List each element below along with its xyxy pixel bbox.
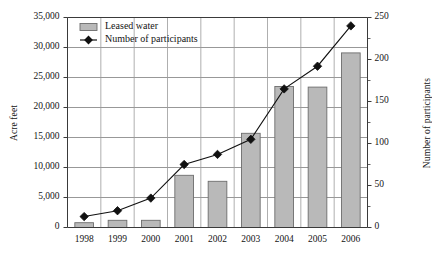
y-left-tick-label: 10,000: [14, 161, 60, 171]
y-left-tick-label: 0: [14, 221, 60, 231]
legend-label-participants: Number of participants: [105, 33, 198, 44]
bar-2005: [308, 87, 327, 227]
data-point-1999: [113, 207, 121, 215]
legend-swatch-leased-water: [80, 24, 97, 31]
y-right-tick-label: 250: [375, 11, 415, 21]
bar-2003: [242, 133, 261, 227]
bar-1998: [75, 223, 94, 228]
y-left-tick-label: 15,000: [14, 131, 60, 141]
y-left-tick-label: 20,000: [14, 101, 60, 111]
legend-label-leased-water: Leased water: [105, 20, 158, 31]
y-left-tick-label: 35,000: [14, 11, 60, 21]
bar-2004: [275, 87, 294, 228]
y-right-tick-label: 50: [375, 179, 415, 189]
bar-2002: [208, 181, 227, 227]
legend-graphics: [80, 24, 97, 45]
data-point-2002: [213, 150, 221, 158]
y-right-tick-label: 100: [375, 137, 415, 147]
bar-2006: [342, 53, 361, 228]
data-point-1998: [80, 212, 88, 220]
bar-2001: [175, 175, 194, 227]
y-right-tick-label: 0: [375, 221, 415, 231]
y-right-tick-label: 200: [375, 53, 415, 63]
bars-group: [75, 53, 360, 228]
y-right-tick-label: 150: [375, 95, 415, 105]
bar-2000: [142, 220, 161, 227]
y-left-tick-label: 30,000: [14, 41, 60, 51]
y-left-tick-label: 5,000: [14, 191, 60, 201]
y-left-tick-label: 25,000: [14, 71, 60, 81]
legend-marker-diamond-icon: [84, 36, 93, 45]
bar-1999: [108, 220, 127, 227]
x-tick-label-2006: 2006: [331, 234, 371, 244]
